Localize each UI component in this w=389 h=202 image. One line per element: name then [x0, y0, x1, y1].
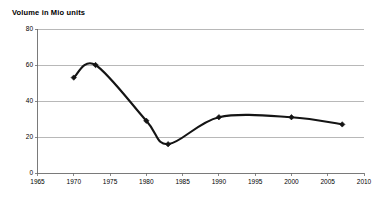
x-tick-label-1990: 1990 [212, 178, 227, 185]
series-line-volume [74, 63, 342, 144]
y-tick-label-0: 0 [29, 169, 33, 176]
data-point-1983 [165, 142, 170, 147]
plot-area: 020406080 196519701975198019851990199520… [0, 0, 389, 202]
x-tick-label-1995: 1995 [248, 178, 263, 185]
x-tick-label-1980: 1980 [139, 178, 154, 185]
x-tick-label-1965: 1965 [30, 178, 45, 185]
x-tick-label-1970: 1970 [67, 178, 82, 185]
x-tick-label-1975: 1975 [103, 178, 118, 185]
y-tick-label-60: 60 [26, 61, 34, 68]
x-axis-ticks: 1965197019751980198519901995200020052010 [30, 173, 371, 185]
data-point-1990 [216, 115, 221, 120]
y-tick-label-20: 20 [26, 133, 34, 140]
x-tick-label-2005: 2005 [320, 178, 335, 185]
x-tick-label-1985: 1985 [175, 178, 190, 185]
chart-svg: 020406080 196519701975198019851990199520… [0, 0, 389, 202]
x-tick-label-2000: 2000 [284, 178, 299, 185]
series-markers [71, 62, 345, 147]
data-point-2007 [340, 122, 345, 127]
y-tick-label-80: 80 [26, 25, 34, 32]
y-axis-ticks: 020406080 [26, 25, 38, 176]
y-tick-label-40: 40 [26, 97, 34, 104]
data-point-2000 [289, 115, 294, 120]
chart-container: Volume in Mio units 020406080 1965197019… [0, 0, 389, 202]
x-tick-label-2010: 2010 [357, 178, 372, 185]
